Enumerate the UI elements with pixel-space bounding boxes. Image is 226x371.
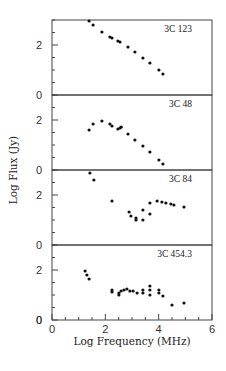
data-point <box>117 293 120 296</box>
data-point <box>141 291 144 294</box>
panel-3c-123: 023C 123 <box>36 19 212 101</box>
data-point <box>141 56 144 59</box>
data-point <box>148 150 151 153</box>
data-point <box>141 288 144 291</box>
data-point <box>182 205 185 208</box>
data-point <box>132 289 135 292</box>
data-point <box>128 210 131 213</box>
data-point <box>92 178 95 181</box>
data-point <box>160 200 163 203</box>
data-point <box>120 289 123 292</box>
data-point <box>129 214 132 217</box>
data-point <box>122 288 125 291</box>
data-point <box>148 293 151 296</box>
data-point <box>161 294 164 297</box>
panel-label: 3C 123 <box>164 24 192 34</box>
x-tick-label: 0 <box>49 323 55 335</box>
y-axis-label: Log Flux (Jy) <box>7 136 19 204</box>
data-point <box>88 128 91 131</box>
y-tick-label: 2 <box>36 39 42 51</box>
x-tick-label: 6 <box>209 323 215 335</box>
data-point <box>110 199 113 202</box>
data-point <box>92 23 95 26</box>
data-point <box>85 273 88 276</box>
data-point <box>141 218 144 221</box>
data-point <box>148 284 151 287</box>
y-tick-label: 0 <box>36 314 42 326</box>
data-point <box>161 72 164 75</box>
y-tick-label: 2 <box>36 114 42 126</box>
data-point <box>169 202 172 205</box>
spectra-chart: 023C 123023C 48023C 84023C 454.3 02460 L… <box>0 0 226 371</box>
data-point <box>148 288 151 291</box>
data-point <box>161 162 164 165</box>
data-point <box>110 290 113 293</box>
data-point <box>128 289 131 292</box>
data-point <box>110 36 113 39</box>
data-point <box>126 45 129 48</box>
data-point <box>157 68 160 71</box>
data-point <box>157 158 160 161</box>
data-point <box>133 138 136 141</box>
data-point <box>164 201 167 204</box>
data-point <box>120 125 123 128</box>
y-tick-label: 0 <box>36 89 42 101</box>
x-tick-label: 2 <box>102 323 108 335</box>
data-point <box>100 30 103 33</box>
data-point <box>170 303 173 306</box>
data-point <box>125 287 128 290</box>
x-axis-label: Log Frequency (MHz) <box>73 335 190 347</box>
data-point <box>136 291 139 294</box>
panel-3c-48: 023C 48 <box>36 95 212 176</box>
data-point <box>110 124 113 127</box>
data-point <box>141 208 144 211</box>
data-point <box>100 119 103 122</box>
y-tick-label: 2 <box>36 189 42 201</box>
data-point <box>84 269 87 272</box>
panel-3c-84: 023C 84 <box>36 170 212 251</box>
panels-group: 023C 123023C 48023C 84023C 454.3 <box>36 19 212 326</box>
panel-label: 3C 48 <box>169 99 192 109</box>
data-point <box>141 144 144 147</box>
panel-label: 3C 454.3 <box>157 249 192 259</box>
data-point <box>88 277 91 280</box>
x-axis: 02460 <box>36 314 215 335</box>
y-tick-label: 2 <box>36 264 42 276</box>
data-point <box>148 201 151 204</box>
y-tick-label: 0 <box>36 164 42 176</box>
data-point <box>148 212 151 215</box>
data-point <box>157 288 160 291</box>
data-point <box>156 199 159 202</box>
data-point <box>134 218 137 221</box>
data-point <box>118 40 121 43</box>
data-point <box>88 171 91 174</box>
panel-label: 3C 84 <box>169 174 192 184</box>
data-point <box>92 122 95 125</box>
data-point <box>88 19 91 22</box>
data-point <box>172 203 175 206</box>
data-point <box>133 50 136 53</box>
panel-3c-454-3: 023C 454.3 <box>36 245 212 326</box>
data-point <box>148 61 151 64</box>
data-point <box>182 301 185 304</box>
y-tick-label: 0 <box>36 239 42 251</box>
data-point <box>157 291 160 294</box>
data-point <box>126 132 129 135</box>
x-tick-label: 4 <box>156 323 162 335</box>
